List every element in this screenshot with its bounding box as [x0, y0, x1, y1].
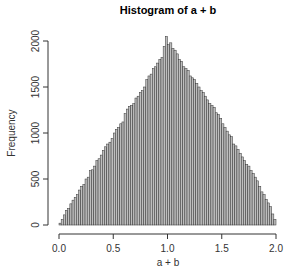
- histogram-bar: [98, 159, 100, 225]
- histogram-bar: [207, 100, 209, 225]
- histogram-bar: [174, 50, 176, 225]
- histogram-bar: [272, 214, 274, 225]
- x-tick-label: 0.5: [106, 243, 120, 254]
- histogram-bar: [72, 200, 74, 225]
- histogram-bar: [211, 105, 213, 225]
- histogram-bar: [81, 186, 83, 225]
- histogram-bar: [100, 155, 102, 225]
- histogram-bar: [217, 115, 219, 225]
- histogram-chart: Histogram of a + b 0500100015002000 0.00…: [0, 0, 293, 278]
- histogram-bar: [59, 223, 61, 225]
- histogram-bar: [265, 199, 267, 225]
- histogram-bar: [148, 76, 150, 225]
- y-tick-label: 0: [30, 222, 41, 228]
- histogram-bar: [165, 36, 167, 225]
- histogram-bar: [115, 129, 117, 225]
- histogram-bar: [102, 150, 104, 225]
- histogram-bar: [113, 133, 115, 225]
- histogram-bar: [126, 109, 128, 225]
- y-tick-label: 2000: [30, 29, 41, 52]
- y-tick-label: 1500: [30, 75, 41, 98]
- histogram-bar: [154, 67, 156, 225]
- histogram-bar: [131, 105, 133, 225]
- histogram-bar: [161, 58, 163, 225]
- histogram-bar: [157, 63, 159, 225]
- x-axis: 0.00.51.01.52.0: [52, 234, 283, 254]
- histogram-bar: [254, 177, 256, 225]
- histogram-bar: [181, 61, 183, 225]
- histogram-bar: [189, 76, 191, 225]
- histogram-bar: [94, 166, 96, 225]
- x-tick-label: 1.5: [215, 243, 229, 254]
- histogram-bar: [150, 74, 152, 225]
- histogram-bar: [185, 69, 187, 225]
- histogram-bar: [141, 91, 143, 225]
- histogram-bar: [243, 161, 245, 225]
- histogram-bar: [172, 48, 174, 225]
- histogram-bar: [68, 208, 70, 225]
- histogram-bar: [235, 146, 237, 225]
- histogram-bar: [215, 113, 217, 225]
- histogram-bar: [194, 80, 196, 225]
- histogram-bar: [200, 91, 202, 225]
- histogram-bar: [92, 170, 94, 225]
- histogram-bar: [111, 139, 113, 225]
- histogram-bar: [146, 80, 148, 225]
- histogram-bar: [178, 59, 180, 225]
- x-tick-label: 1.0: [161, 243, 175, 254]
- histogram-bar: [202, 93, 204, 225]
- histogram-bar: [122, 122, 124, 225]
- histogram-bar: [267, 203, 269, 225]
- chart-title: Histogram of a + b: [120, 4, 217, 16]
- histogram-bar: [198, 87, 200, 225]
- histogram-bar: [233, 144, 235, 225]
- histogram-bar: [209, 104, 211, 225]
- histogram-bar: [66, 210, 68, 225]
- histogram-bar: [213, 107, 215, 225]
- histogram-bar: [222, 124, 224, 225]
- histogram-bar: [228, 135, 230, 225]
- histogram-bar: [259, 186, 261, 225]
- y-axis: 0500100015002000: [30, 29, 48, 227]
- histogram-bar: [224, 127, 226, 225]
- histogram-bar: [239, 153, 241, 225]
- histogram-bar: [139, 93, 141, 225]
- histogram-bar: [137, 96, 139, 225]
- histogram-bar: [170, 43, 172, 225]
- histogram-bar: [220, 118, 222, 225]
- histogram-bar: [269, 207, 271, 225]
- histogram-bar: [196, 83, 198, 225]
- x-tick-label: 2.0: [269, 243, 283, 254]
- histogram-bar: [246, 164, 248, 225]
- histogram-bar: [107, 144, 109, 225]
- histogram-bar: [133, 104, 135, 225]
- histogram-bar: [124, 114, 126, 225]
- histogram-bar: [144, 87, 146, 225]
- histogram-bar: [109, 142, 111, 225]
- histogram-bar: [183, 67, 185, 225]
- histogram-bar: [204, 96, 206, 225]
- histogram-bar: [237, 150, 239, 225]
- histogram-bar: [61, 219, 63, 225]
- histogram-bars: [59, 36, 276, 225]
- histogram-bar: [105, 147, 107, 225]
- x-axis-label: a + b: [157, 257, 180, 268]
- histogram-bar: [120, 124, 122, 225]
- histogram-bar: [70, 204, 72, 225]
- histogram-bar: [163, 47, 165, 225]
- histogram-bar: [74, 197, 76, 225]
- histogram-bar: [128, 106, 130, 225]
- histogram-bar: [226, 131, 228, 225]
- histogram-bar: [168, 45, 170, 225]
- y-axis-label: Frequency: [6, 109, 17, 156]
- histogram-bar: [274, 219, 276, 225]
- y-tick-label: 500: [30, 170, 41, 187]
- histogram-bar: [256, 181, 258, 225]
- histogram-bar: [261, 192, 263, 225]
- histogram-bar: [263, 195, 265, 225]
- histogram-bar: [252, 173, 254, 225]
- histogram-bar: [152, 69, 154, 225]
- histogram-bar: [89, 171, 91, 225]
- histogram-bar: [230, 137, 232, 225]
- histogram-bar: [241, 157, 243, 225]
